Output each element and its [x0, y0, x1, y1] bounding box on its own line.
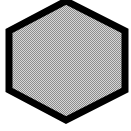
hexagon-shape — [9, 1, 125, 120]
hexagon-svg — [0, 0, 131, 131]
image-canvas — [0, 0, 131, 131]
